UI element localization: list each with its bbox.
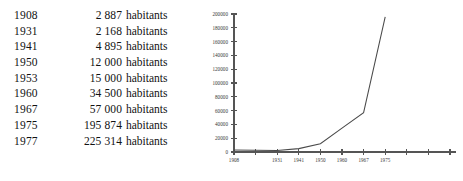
cell-year: 1975 [14,119,56,135]
y-tick-label: 200000 [212,11,228,17]
cell-population-count: 4 895 [56,40,125,56]
y-tick-label: 120000 [212,66,228,72]
population-line-chart: 0200004000060000800001000001200001400001… [190,6,458,178]
population-table-body: 19082 887habitants19312 168habitants1941… [14,9,182,150]
x-tick-label: 1975 [380,157,391,163]
y-tick-label: 0 [225,149,228,155]
cell-population-count: 15 000 [56,72,125,88]
cell-population-count: 57 000 [56,103,125,119]
y-tick-label: 40000 [215,121,228,127]
cell-year: 1960 [14,87,56,103]
cell-year: 1953 [14,72,56,88]
y-tick-label: 20000 [215,135,228,141]
table-row: 195012 000habitants [14,56,182,72]
table-row: 1975195 874habitants [14,119,182,135]
y-tick-label: 180000 [212,25,228,31]
y-tick-label: 60000 [215,108,228,114]
population-table: 19082 887habitants19312 168habitants1941… [14,9,182,150]
cell-year: 1977 [14,135,56,151]
y-tick-label: 80000 [215,94,228,100]
x-tick-label: 1908 [229,157,240,163]
x-axis: 1908193119411950196019671975 [229,149,456,163]
table-row: 19082 887habitants [14,9,182,25]
cell-unit-label: habitants [125,9,182,25]
y-tick-label: 140000 [212,52,228,58]
cell-unit-label: habitants [125,72,182,88]
x-tick-label: 1950 [315,157,326,163]
cell-population-count: 34 500 [56,87,125,103]
y-axis: 0200004000060000800001000001200001400001… [212,11,237,155]
table-row: 19312 168habitants [14,25,182,41]
y-axis-ticks: 0200004000060000800001000001200001400001… [212,11,237,155]
x-tick-label: 1960 [337,157,348,163]
cell-population-count: 195 874 [56,119,125,135]
table-row: 196757 000habitants [14,103,182,119]
table-row: 19414 895habitants [14,40,182,56]
table-row: 1977225 314habitants [14,135,182,151]
cell-year: 1941 [14,40,56,56]
population-series-line [234,17,385,151]
cell-year: 1967 [14,103,56,119]
cell-year: 1908 [14,9,56,25]
cell-unit-label: habitants [125,135,182,151]
cell-population-count: 225 314 [56,135,125,151]
x-tick-label: 1931 [272,157,283,163]
cell-unit-label: habitants [125,119,182,135]
cell-unit-label: habitants [125,25,182,41]
table-row: 195315 000habitants [14,72,182,88]
cell-unit-label: habitants [125,56,182,72]
cell-population-count: 12 000 [56,56,125,72]
x-tick-label: 1941 [294,157,305,163]
table-row: 196034 500habitants [14,87,182,103]
cell-year: 1950 [14,56,56,72]
x-axis-ticks: 1908193119411950196019671975 [229,149,450,163]
chart-svg: 0200004000060000800001000001200001400001… [190,6,458,178]
cell-unit-label: habitants [125,103,182,119]
y-tick-label: 160000 [212,39,228,45]
cell-unit-label: habitants [125,40,182,56]
cell-population-count: 2 887 [56,9,125,25]
cell-unit-label: habitants [125,87,182,103]
x-tick-label: 1967 [358,157,369,163]
cell-population-count: 2 168 [56,25,125,41]
y-tick-label: 100000 [212,80,228,86]
cell-year: 1931 [14,25,56,41]
